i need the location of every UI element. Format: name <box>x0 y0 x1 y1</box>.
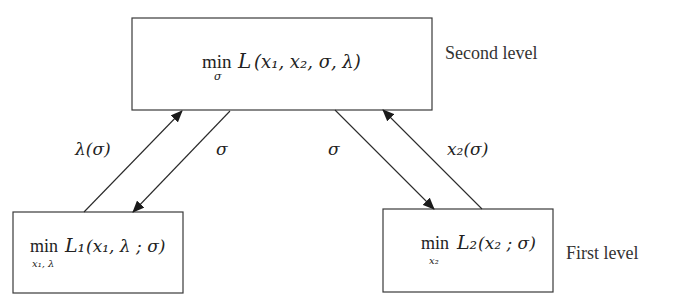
second-level-label: Second level <box>445 43 537 63</box>
edge-label-x2-sigma: x₂(σ) <box>447 139 488 159</box>
edge-label-sigma-left: σ <box>216 139 228 159</box>
arrow-sigma-down-left <box>133 111 230 212</box>
right-function-name: L₂ <box>456 231 477 253</box>
top-min-operator: min <box>202 51 232 72</box>
top-min-subscript: σ <box>214 70 222 83</box>
left-function-name: L₁ <box>64 234 85 256</box>
edge-label-sigma-right: σ <box>328 139 340 159</box>
left-min-subscript: x₁, λ <box>32 258 54 269</box>
left-min-operator: min <box>30 236 58 256</box>
left-function-args: (x₁, λ ; σ) <box>86 236 165 256</box>
bilevel-diagram: min σ L (x₁, x₂, σ, λ) Second level min … <box>0 0 673 306</box>
arrow-sigma-down-right <box>335 110 434 209</box>
right-min-subscript: x₂ <box>429 255 439 266</box>
right-function-args: (x₂ ; σ) <box>478 233 536 253</box>
edge-label-lambda-sigma: λ(σ) <box>74 139 111 159</box>
first-level-label: First level <box>566 243 639 263</box>
first-level-node-1: min x₁, λ L₁ (x₁, λ ; σ) <box>13 212 183 293</box>
arrow-lambda-up <box>84 111 182 212</box>
arrow-x2-up <box>383 110 482 209</box>
first-level-node-2: min x₂ L₂ (x₂ ; σ) <box>383 209 553 292</box>
second-level-node: min σ L (x₁, x₂, σ, λ) <box>132 18 432 110</box>
top-function-name: L <box>237 49 251 73</box>
top-function-args: (x₁, x₂, σ, λ) <box>254 51 361 72</box>
right-min-operator: min <box>421 233 449 253</box>
